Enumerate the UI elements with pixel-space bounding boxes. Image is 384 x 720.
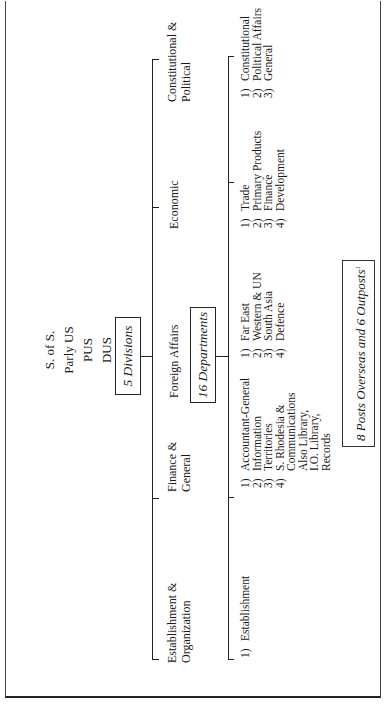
division-tick [152, 659, 159, 660]
item-number: 1) [240, 211, 252, 228]
item-label: Territories [263, 423, 275, 471]
department-tick [228, 497, 234, 498]
item-label: Trade [240, 185, 252, 211]
item-number: 1) [240, 641, 252, 658]
list-item: 1) Constitutional [240, 8, 252, 98]
departments-line [228, 56, 229, 660]
list-item: 1) Establishment [240, 576, 252, 658]
dept-list-constitutional: 1) Constitutional 2) Political Affairs 3… [240, 8, 275, 98]
division-label-line: General [180, 442, 194, 492]
item-label: General [263, 45, 275, 81]
item-number: 3) [263, 341, 275, 358]
item-label: South Asia [263, 291, 275, 341]
item-label-continued: Communications [286, 378, 298, 488]
division-label-line: Establishment & [166, 583, 180, 663]
extra-note: Records [321, 378, 333, 488]
list-item: 3) Territories [263, 378, 275, 488]
list-item: 4) Defence [275, 272, 287, 358]
title-pus: PUS [78, 280, 97, 420]
extra-note: I.O. Library, [309, 378, 321, 488]
departments-connector [216, 356, 228, 357]
division-label-line: Economic [168, 180, 182, 229]
item-label: Finance [263, 175, 275, 211]
item-number: 4) [275, 471, 287, 488]
item-number: 4) [275, 341, 287, 358]
division-label-line: Constitutional & [166, 22, 180, 102]
item-number: 1) [240, 341, 252, 358]
division-label-line: Foreign Affairs [168, 325, 182, 398]
item-label: Accountant-General [240, 378, 252, 471]
item-number: 3) [263, 81, 275, 98]
org-chart-page: S. of S. Parly US PUS DUS 5 AUS 5 Divisi… [0, 0, 384, 720]
division-label-line: Finance & [166, 442, 180, 492]
divisions-line [152, 59, 153, 660]
department-tick [228, 659, 234, 660]
list-item: 3) Finance [263, 131, 275, 228]
list-item: 3) General [263, 8, 275, 98]
dept-list-finance: 1) Accountant-General 2) Information 3) … [240, 378, 332, 488]
list-item: 3) South Asia [263, 272, 275, 358]
item-number: 1) [240, 471, 252, 488]
department-tick [228, 56, 234, 57]
title-dus: DUS [97, 280, 116, 420]
footnote-marker: 1 [354, 266, 362, 270]
division-tick [152, 59, 159, 60]
list-item: 4) Development [275, 131, 287, 228]
item-label: Development [275, 149, 287, 211]
item-number: 4) [275, 211, 287, 228]
posts-overseas-text: 8 Posts Overseas and 6 Outposts [353, 269, 368, 441]
dept-list-foreign-affairs: 1) Far East 2) Western & UN 3) South Asi… [240, 272, 286, 358]
divisions-box: 5 Divisions [115, 317, 141, 395]
item-number: 3) [263, 471, 275, 488]
division-label-constitutional: Constitutional & Political [166, 22, 193, 102]
division-label-line: Political [180, 22, 194, 102]
list-item: 1) Far East [240, 272, 252, 358]
department-tick [228, 182, 234, 183]
divisions-connector [141, 356, 152, 357]
item-label: Defence [275, 303, 287, 341]
division-label-line: Organization [180, 583, 194, 663]
item-label: Far East [240, 303, 252, 341]
posts-overseas-box: 8 Posts Overseas and 6 Outposts1 [342, 260, 375, 447]
division-label-finance: Finance & General [166, 442, 193, 492]
item-label: Constitutional [240, 16, 252, 81]
dept-list-economic: 1) Trade 2) Primary Products 3) Finance … [240, 131, 286, 228]
item-label: Establishment [240, 576, 252, 641]
item-number: 1) [240, 81, 252, 98]
division-label-foreign-affairs: Foreign Affairs [168, 325, 182, 398]
list-item: 1) Trade [240, 131, 252, 228]
division-label-economic: Economic [168, 180, 182, 229]
list-item: 1) Accountant-General [240, 378, 252, 488]
departments-box: 16 Departments [190, 307, 216, 403]
division-tick [152, 207, 159, 208]
division-label-establishment: Establishment & Organization [166, 583, 193, 663]
dept-list-establishment: 1) Establishment [240, 576, 252, 658]
title-parly-us: Parly US [59, 280, 78, 420]
division-tick [152, 498, 159, 499]
item-number: 3) [263, 211, 275, 228]
title-secretary-of-state: S. of S. [40, 280, 59, 420]
